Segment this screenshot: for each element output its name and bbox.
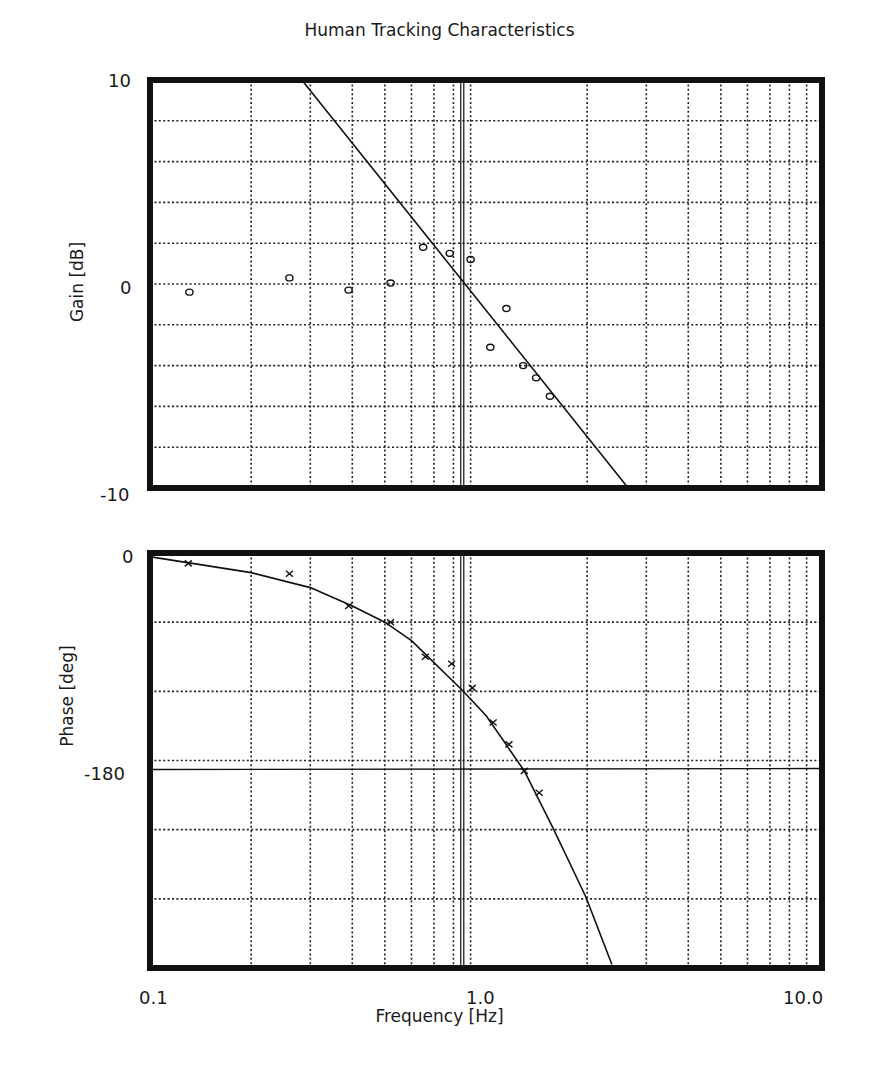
gain-data-point [345, 287, 352, 293]
figure-caption [0, 1076, 879, 1086]
model-curve [302, 80, 628, 488]
gain-plot [150, 80, 822, 488]
phase-plot [150, 553, 822, 968]
bode-plot-canvas [0, 0, 879, 1086]
x-tick-0-1: 0.1 [139, 987, 168, 1008]
x-tick-1-0: 1.0 [466, 987, 495, 1008]
gain-data-point [503, 305, 510, 311]
gain-tick-0: 0 [120, 277, 131, 298]
phase-tick-minus-180: -180 [84, 763, 125, 784]
x-axis-label: Frequency [Hz] [0, 1006, 879, 1026]
minus-180-reference-line [150, 769, 822, 770]
phase-tick-0: 0 [122, 546, 133, 567]
gain-data-point [446, 250, 453, 256]
grid-lines [150, 553, 822, 968]
gain-data-point [420, 244, 427, 250]
gain-axis-label: Gain [dB] [67, 227, 87, 337]
phase-data-point [469, 685, 476, 691]
gain-data-point [186, 289, 193, 295]
x-tick-10-0: 10.0 [783, 987, 823, 1008]
gain-data-point [487, 344, 494, 350]
phase-data-point [286, 571, 293, 577]
gain-tick-10: 10 [108, 70, 131, 91]
bode-figure: Human Tracking Characteristics Gain [dB]… [0, 0, 879, 1086]
gain-data-point [387, 280, 394, 286]
phase-axis-label: Phase [deg] [57, 631, 77, 761]
grid-lines [150, 80, 822, 488]
gain-tick-minus-10: -10 [100, 484, 129, 505]
gain-data-point [286, 275, 293, 281]
